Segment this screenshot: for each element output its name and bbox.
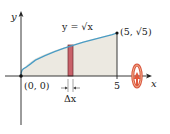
- endpoint-label: (5, √5): [120, 26, 152, 37]
- origin-point: [19, 74, 23, 78]
- solid-of-revolution-diagram: y x 5 (0, 0) (5, √5) y = √x Δx: [0, 0, 170, 134]
- delta-x-label: Δx: [64, 93, 77, 104]
- origin-label: (0, 0): [24, 80, 50, 91]
- delta-x-arrow-left-icon: [65, 87, 68, 90]
- x-axis-label: x: [151, 78, 157, 89]
- curve-label: y = √x: [61, 21, 93, 32]
- y-axis-label: y: [10, 11, 17, 22]
- endpoint-point: [115, 31, 118, 34]
- delta-x-arrow-right-icon: [73, 87, 76, 90]
- delta-x-strip: [68, 45, 73, 76]
- rotate-about-x-axis-icon: [133, 65, 141, 87]
- x-tick-label-5: 5: [114, 80, 120, 91]
